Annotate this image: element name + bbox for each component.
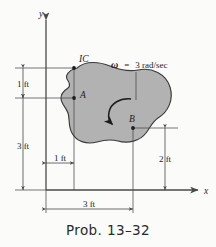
point-ic-label: IC	[78, 54, 89, 64]
x-axis-label: x	[203, 186, 209, 196]
diagram-canvas: y x IC A B ω = 3 rad/sec	[0, 0, 216, 247]
y-axis-label: y	[38, 9, 44, 19]
omega-label: ω = 3 rad/sec	[111, 54, 168, 71]
problem-figure: y x IC A B ω = 3 rad/sec	[0, 0, 216, 247]
point-b-label: B	[129, 114, 135, 124]
dim-1ft-vert-top-label: 1 ft	[17, 79, 30, 89]
figure-caption: Prob. 13–32	[0, 222, 216, 238]
point-a-label: A	[79, 90, 86, 100]
point-a-marker	[72, 96, 76, 100]
dim-3ft-horz-bottom-label: 3 ft	[83, 199, 96, 209]
dim-1ft-horz-label: 1 ft	[54, 153, 67, 163]
dim-2ft-vert-right-label: 2 ft	[159, 154, 172, 164]
dim-3ft-vert-left-label: 3 ft	[17, 141, 30, 151]
omega-equals: =	[124, 60, 129, 70]
omega-symbol: ω	[111, 59, 118, 70]
omega-value: 3 rad/sec	[135, 60, 167, 70]
point-b-marker	[131, 126, 135, 130]
point-ic-marker	[72, 66, 76, 70]
